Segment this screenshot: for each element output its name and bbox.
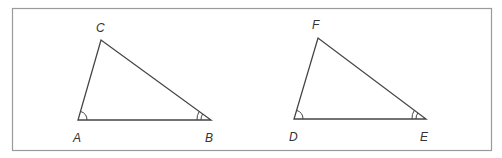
vertex-label-c: C xyxy=(96,21,105,35)
angle-e-inner-mark-icon xyxy=(416,113,418,119)
angle-b-inner-mark-icon xyxy=(201,114,203,120)
triangle-abc-outline xyxy=(78,40,211,120)
triangle-def: D E F xyxy=(289,18,429,144)
similar-triangles-diagram: A B C D E F xyxy=(0,0,502,158)
vertex-label-a: A xyxy=(72,131,81,145)
vertex-label-f: F xyxy=(312,18,320,32)
angle-a-mark-icon xyxy=(81,112,87,121)
triangle-def-outline xyxy=(294,38,426,119)
angle-e-outer-mark-icon xyxy=(412,110,414,119)
vertex-label-e: E xyxy=(420,130,429,144)
vertex-label-d: D xyxy=(289,130,298,144)
angle-d-mark-icon xyxy=(297,110,303,119)
vertex-label-b: B xyxy=(205,131,213,145)
triangle-abc: A B C xyxy=(72,21,213,145)
angle-b-outer-mark-icon xyxy=(197,112,199,121)
